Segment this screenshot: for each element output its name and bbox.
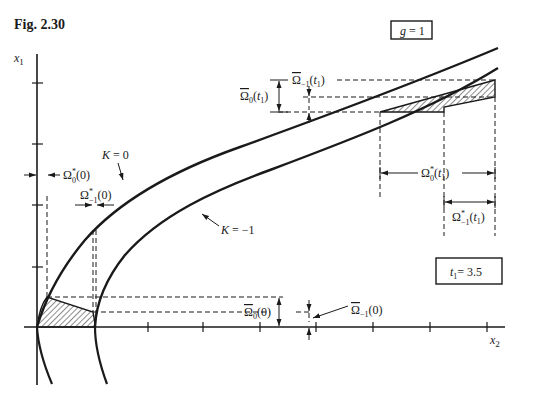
- label-km1: K = −1: [220, 223, 255, 237]
- dim-omega-star-m1-t1: [444, 196, 495, 208]
- dim-omega-bar-0-t1: [270, 80, 288, 112]
- label-omega-star-0-t1: Ω*0(t1): [421, 165, 449, 183]
- svg-text:t1= 3.5: t1= 3.5: [450, 265, 482, 281]
- phase-diagram: x1 x2 K = 0 K = −1 Ω*0(0): [0, 0, 535, 395]
- param-box-g: g = 1: [391, 21, 432, 39]
- label-omega-bar-0-0: Ω0(0): [244, 305, 271, 321]
- label-k0: K = 0: [101, 148, 129, 162]
- dashed-guides: [47, 80, 495, 322]
- dim-omega-bar-m1-0: [309, 300, 348, 340]
- label-omega-star-m1-t1: Ω*−1(t1): [452, 209, 485, 227]
- svg-text:g = 1: g = 1: [400, 24, 425, 38]
- curve-km1-lower: [95, 327, 107, 384]
- label-omega-bar-m1-t1: Ω−1(t1): [292, 73, 325, 89]
- x2-axis-label: x2: [489, 333, 500, 349]
- x1-axis-label: x1: [13, 51, 24, 67]
- pointer-km1: [202, 214, 219, 226]
- label-omega-star-m1-0: Ω*−1(0): [80, 187, 111, 205]
- curve-k0-lower: [37, 327, 52, 384]
- label-omega-star-0-0: Ω*0(0): [63, 167, 90, 185]
- pointer-k0: [118, 163, 123, 180]
- label-omega-bar-m1-0: Ω−1(0): [351, 303, 382, 319]
- hatched-region-t1: [380, 80, 495, 112]
- label-omega-bar-0-t1: Ω0(t1): [240, 89, 268, 105]
- param-box-t1: t1= 3.5: [436, 258, 502, 284]
